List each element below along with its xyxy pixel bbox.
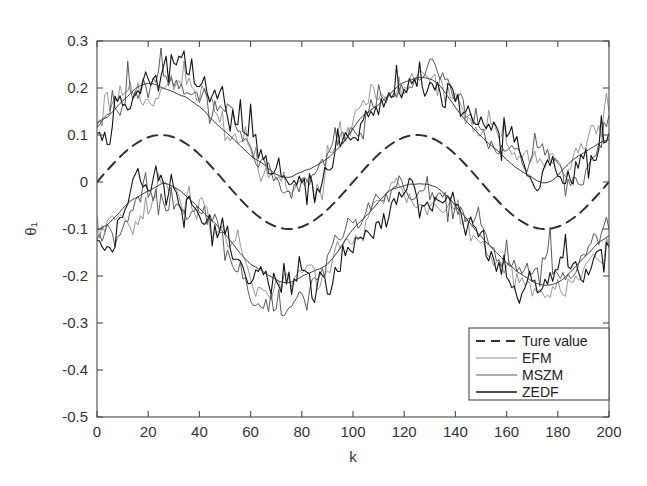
chart-figure: 020406080100120140160180200-0.5-0.4-0.3-… [0,0,647,486]
legend-label-mszm: MSZM [522,367,563,383]
legend[interactable]: Ture valueEFMMSZMZEDF [469,328,609,400]
x-tick-label: 80 [293,423,310,440]
x-tick-label: 180 [545,423,570,440]
legend-label-zedf: ZEDF [522,384,559,400]
y-tick-label: -0.4 [62,361,88,378]
x-tick-label: 120 [392,423,417,440]
x-tick-label: 20 [140,423,157,440]
x-tick-label: 140 [443,423,468,440]
y-tick-label: -0.5 [62,408,88,425]
y-tick-label: 0.1 [67,126,88,143]
y-tick-label: 0.2 [67,79,88,96]
x-tick-label: 200 [596,423,621,440]
x-tick-label: 100 [340,423,365,440]
y-tick-label: -0.2 [62,267,88,284]
y-tick-label: -0.1 [62,220,88,237]
x-tick-label: 60 [242,423,259,440]
y-axis-label: θ₁ [22,222,39,235]
y-tick-label: 0.3 [67,32,88,49]
x-axis-label: k [349,448,357,465]
x-tick-label: 160 [494,423,519,440]
y-tick-label: 0 [80,173,88,190]
legend-label-ture-value: Ture value [522,333,588,349]
x-tick-label: 40 [191,423,208,440]
x-tick-label: 0 [93,423,101,440]
y-tick-label: -0.3 [62,314,88,331]
legend-label-efm: EFM [522,350,552,366]
